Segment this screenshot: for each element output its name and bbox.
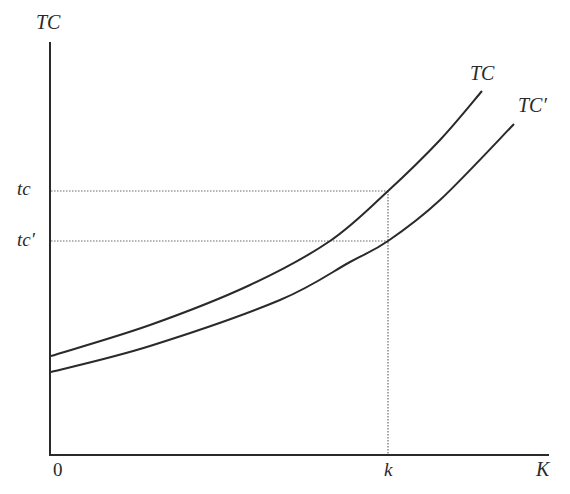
chart: TC K 0 k tc tc′ TC TC′	[0, 0, 570, 494]
curve-tc-prime-label: TC′	[518, 94, 547, 116]
y-axis-label: TC	[36, 11, 61, 33]
k-tick-label: k	[384, 459, 393, 480]
x-axis-label: K	[535, 458, 551, 480]
curve-tc-label: TC	[470, 62, 495, 84]
curve-tc	[51, 91, 482, 356]
origin-label: 0	[53, 459, 63, 480]
tc-tick-label: tc	[17, 178, 31, 199]
tc-prime-tick-label: tc′	[17, 229, 36, 250]
